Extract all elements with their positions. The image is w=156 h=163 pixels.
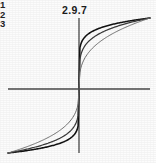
figure-number-label: 2.9.7: [62, 5, 87, 16]
figure-container: 2.9.7 1 2 3: [0, 0, 156, 163]
plot-canvas: [0, 0, 156, 163]
